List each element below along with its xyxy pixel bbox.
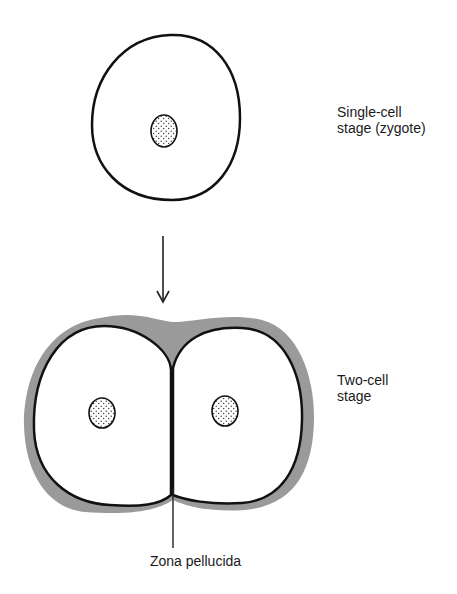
zygote-nucleus: [151, 115, 177, 147]
single-cell-stage-label: Single-cell stage (zygote): [337, 104, 426, 136]
left-nucleus: [89, 398, 115, 428]
two-cell-label-line-1: Two-cell: [337, 372, 388, 388]
two-cell-stage-label: Two-cell stage: [337, 372, 388, 404]
right-nucleus: [212, 396, 238, 426]
embryo-diagram: [0, 0, 457, 594]
two-cell-embryo: [24, 315, 314, 548]
zona-pellucida-label-text: Zona pellucida: [150, 553, 241, 569]
zona-pellucida-label: Zona pellucida: [150, 553, 241, 569]
single-cell-label-line-2: stage (zygote): [337, 120, 426, 136]
division-arrow: [157, 236, 169, 302]
two-cell-label-line-2: stage: [337, 388, 388, 404]
single-cell-label-line-1: Single-cell: [337, 104, 426, 120]
zygote-cell: [92, 35, 240, 200]
